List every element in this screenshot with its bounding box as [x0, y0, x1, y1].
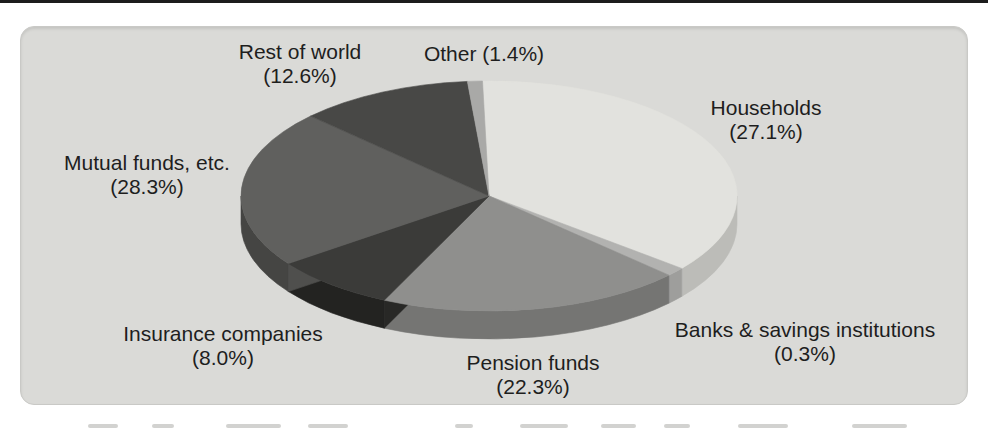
cropped-caption-fragments [0, 0, 988, 428]
